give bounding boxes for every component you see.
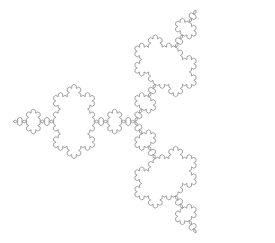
koch-snowflake-outline bbox=[13, 10, 196, 233]
koch-snowflake-figure bbox=[0, 0, 275, 243]
fractal-canvas: Koch snowflake fractal outline bbox=[0, 0, 275, 243]
